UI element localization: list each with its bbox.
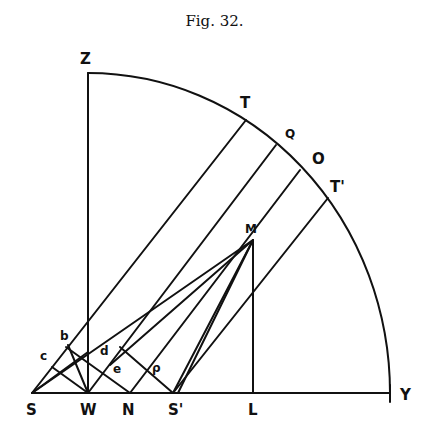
label-S-prime: S' — [168, 401, 183, 419]
label-e: e — [113, 362, 121, 376]
ray-N-O — [130, 170, 300, 393]
label-N: N — [122, 401, 135, 419]
label-L: L — [248, 401, 258, 419]
label-M: M — [245, 222, 257, 236]
label-Z: Z — [80, 50, 91, 68]
ray-S-T — [32, 120, 246, 393]
label-W: W — [80, 401, 97, 419]
label-T-prime: T' — [330, 178, 345, 196]
label-c-outer: c — [40, 349, 47, 363]
label-O: O — [312, 150, 325, 168]
perp-d-N — [120, 347, 173, 393]
label-S: S — [26, 401, 37, 419]
line-W-M — [110, 240, 253, 365]
ray-W-Q — [88, 145, 276, 393]
geometric-diagram: Z T Q O T' M L Y S W N S' b c d e ρ — [0, 0, 429, 428]
label-f: ρ — [152, 361, 161, 375]
label-Y: Y — [399, 386, 412, 404]
label-d: d — [100, 344, 109, 358]
label-b: b — [60, 329, 69, 343]
line-S-M — [32, 240, 253, 393]
label-Q: Q — [285, 127, 295, 141]
label-T: T — [240, 94, 251, 112]
